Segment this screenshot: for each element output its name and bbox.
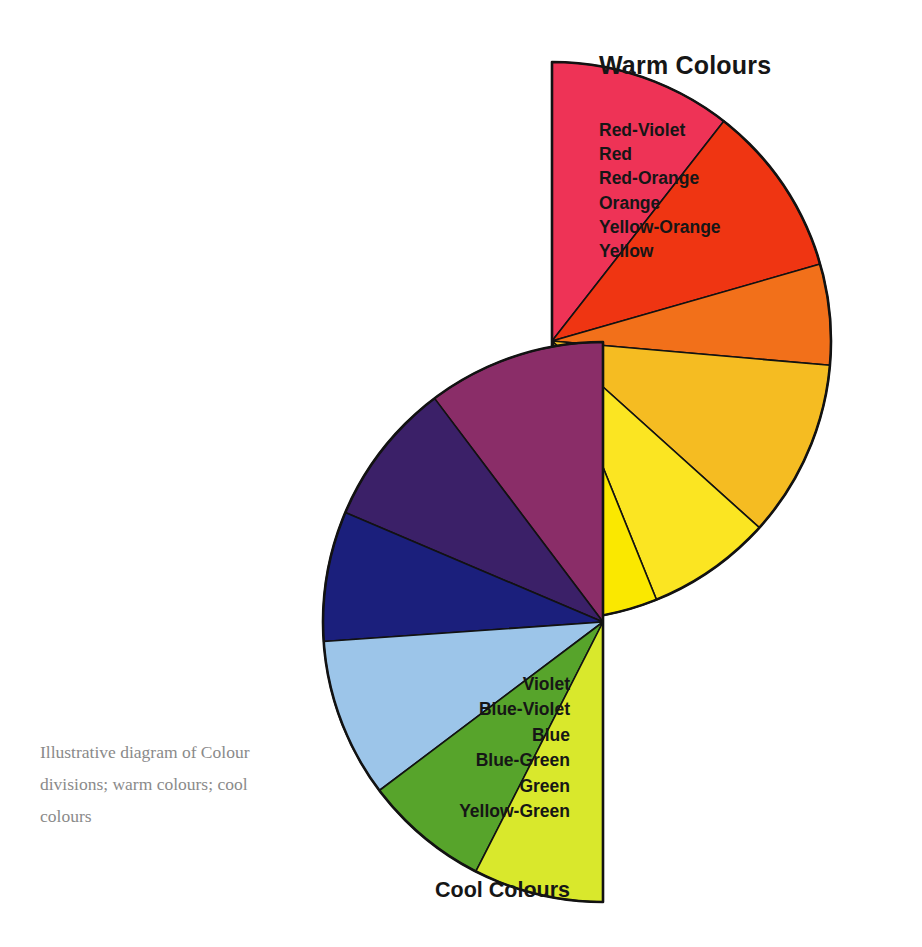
cool-colours-label-list: VioletBlue-VioletBlueBlue-GreenGreenYell… xyxy=(459,672,570,824)
diagram-canvas: Warm Colours Red-VioletRedRed-OrangeOran… xyxy=(0,0,922,947)
warm-colour-label-1: Red xyxy=(599,142,721,166)
cool-colour-label-4: Green xyxy=(459,774,570,799)
cool-colour-label-5: Yellow-Green xyxy=(459,799,570,824)
warm-colour-label-3: Orange xyxy=(599,191,721,215)
warm-colour-label-5: Yellow xyxy=(599,239,721,263)
warm-colour-label-2: Red-Orange xyxy=(599,166,721,190)
cool-colours-heading: Cool Colours xyxy=(435,878,570,903)
warm-colour-label-4: Yellow-Orange xyxy=(599,215,721,239)
cool-colour-label-3: Blue-Green xyxy=(459,748,570,773)
cool-colour-label-1: Blue-Violet xyxy=(459,697,570,722)
cool-colour-label-2: Blue xyxy=(459,723,570,748)
warm-colours-heading: Warm Colours xyxy=(599,51,771,80)
cool-colour-label-0: Violet xyxy=(459,672,570,697)
figure-caption: Illustrative diagram of Colour divisions… xyxy=(40,736,270,832)
warm-colour-label-0: Red-Violet xyxy=(599,118,721,142)
warm-colours-label-list: Red-VioletRedRed-OrangeOrangeYellow-Oran… xyxy=(599,118,721,263)
